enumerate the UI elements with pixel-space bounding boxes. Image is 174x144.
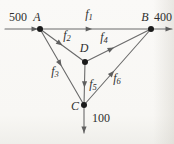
label-node-b: B	[141, 10, 149, 24]
label-outflow-400: 400	[154, 10, 172, 24]
node-d-dot	[82, 59, 88, 65]
edge-f6-c-to-b	[84, 29, 151, 105]
edge-f4-d-to-b-arrowhead-icon	[107, 47, 114, 52]
flow-diagram-svg: 500Af1B400f2f4Df3f5f6C100	[0, 0, 174, 144]
node-a-dot	[37, 26, 43, 32]
label-node-a: A	[32, 10, 41, 24]
label-flow-f5: f5	[89, 77, 97, 92]
edge-f2-a-to-d-arrowhead-icon	[56, 40, 63, 46]
label-inflow-500: 500	[9, 10, 27, 24]
edge-outflow-bottom-arrowhead-icon	[81, 127, 86, 134]
label-flow-f1-subscript: 1	[89, 12, 93, 22]
label-flow-f3: f3	[51, 64, 59, 79]
edge-f4-d-to-b	[85, 29, 151, 62]
edge-f1-a-to-b-arrowhead-icon	[86, 26, 93, 31]
label-flow-f5-subscript: 5	[93, 82, 97, 92]
label-flow-f4-subscript: 4	[104, 35, 109, 45]
label-flow-f3-subscript: 3	[54, 69, 59, 79]
label-flow-f2-subscript: 2	[67, 33, 72, 43]
label-flow-f1: f1	[85, 7, 93, 22]
edge-f3-a-to-c-arrowhead-icon	[56, 59, 62, 66]
label-node-d: D	[79, 41, 89, 55]
label-flow-f4: f4	[100, 30, 108, 45]
label-node-c: C	[71, 99, 80, 113]
label-flow-f2: f2	[63, 28, 71, 43]
label-flow-f6: f6	[113, 71, 121, 86]
label-outflow-100: 100	[92, 111, 110, 125]
edge-f5-d-to-c-arrowhead-icon	[82, 81, 87, 88]
edge-f3-a-to-c	[40, 29, 84, 105]
label-flow-f6-subscript: 6	[117, 76, 122, 86]
node-c-dot	[81, 102, 87, 108]
node-b-dot	[148, 26, 154, 32]
textbook-figure: 500Af1B400f2f4Df3f5f6C100	[0, 0, 174, 144]
edge-outflow-right-arrowhead-icon	[166, 26, 173, 31]
